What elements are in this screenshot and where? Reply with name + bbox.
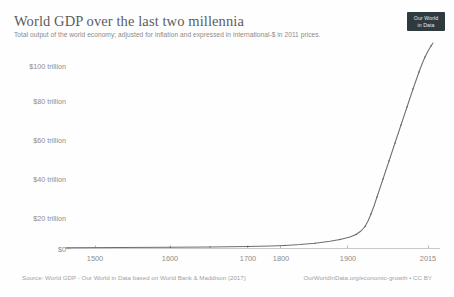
x-axis-labels: 1500 1600 1700 1800 1900 2015 <box>0 0 454 297</box>
footer-source-text: Source: World GDP - Our World in Data ba… <box>22 274 246 281</box>
x-tick-label-2015: 2015 <box>420 254 436 263</box>
x-tick-label-1500: 1500 <box>87 254 103 263</box>
x-tick-label-1600: 1600 <box>162 254 178 263</box>
x-tick-label-1900: 1900 <box>340 254 356 263</box>
x-tick-label-1700: 1700 <box>240 254 256 263</box>
footer-license-text[interactable]: OurWorldInData.org/economic-growth • CC … <box>303 274 432 281</box>
chart-page: World GDP over the last two millennia To… <box>0 0 454 297</box>
x-tick-label-1800: 1800 <box>273 254 289 263</box>
